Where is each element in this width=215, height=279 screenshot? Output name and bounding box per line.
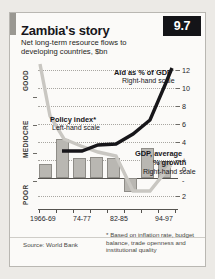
annotation-aid-label: Aid as % of GDP: [114, 68, 172, 77]
right-axis-tick: [176, 160, 180, 161]
left-axis-tick: [33, 97, 37, 98]
x-axis-tick: [90, 209, 91, 213]
left-axis-tick: [33, 181, 37, 182]
x-axis-label: 1966-69: [30, 215, 56, 222]
x-axis-tick: [107, 209, 108, 213]
source-note: Source: World Bank: [23, 241, 78, 248]
x-axis-tick: [141, 209, 142, 213]
figure-number-badge: 9.7: [163, 16, 201, 36]
right-axis-tick: [176, 88, 180, 89]
right-axis-tick: [176, 70, 180, 71]
chart-subtitle: Net long-term resource flows to developi…: [21, 38, 151, 57]
x-axis-tick: [39, 209, 40, 213]
annotation-gdp-scale: Right-hand scale: [143, 168, 196, 175]
right-axis-tick: [176, 196, 180, 197]
right-axis-value: 6: [182, 120, 186, 129]
x-axis-tick: [175, 209, 176, 213]
right-axis-value: 10: [182, 84, 190, 93]
right-axis-value: 2: [182, 192, 186, 201]
x-axis-label: 82-85: [110, 215, 128, 222]
right-axis-tick: [176, 106, 180, 107]
x-axis-line: [38, 209, 178, 210]
annotation-policy-label: Policy index*: [50, 115, 96, 124]
right-axis-value: 8: [182, 102, 186, 111]
annotation-aid-scale: Right-hand scale: [122, 77, 175, 84]
left-axis-tick: [33, 125, 37, 126]
page-title: Zambia's story: [21, 23, 109, 38]
right-axis-tick: [176, 142, 180, 143]
left-axis-tick: [33, 153, 37, 154]
footnote: * Based on inflation rate, budget balanc…: [106, 231, 204, 254]
annotation-gdp-label: GDP, average: [135, 149, 182, 158]
right-axis-value: 12: [182, 66, 190, 75]
right-axis-tick: [176, 124, 180, 125]
x-axis-tick: [73, 209, 74, 213]
x-axis-label: 94-97: [155, 215, 173, 222]
x-axis-tick: [124, 209, 125, 213]
accent-bar: [10, 13, 16, 35]
x-axis-tick: [158, 209, 159, 213]
x-axis-tick: [56, 209, 57, 213]
right-axis-value: 4: [182, 138, 186, 147]
chart-card: 9.7 Zambia's story Net long-term resourc…: [9, 12, 206, 267]
right-axis-sign-minus: -: [182, 176, 184, 185]
right-axis-value: 0: [182, 165, 186, 174]
left-axis-label-poor: POOR: [22, 185, 29, 205]
x-axis-label: 74-77: [73, 215, 91, 222]
left-axis-label-mediocre: MEDIOCRE: [22, 120, 29, 158]
left-axis-label-good: GOOD: [22, 70, 29, 91]
annotation-policy-scale: Left-hand scale: [52, 124, 100, 131]
screenshot-frame: 9.7 Zambia's story Net long-term resourc…: [0, 0, 215, 279]
right-axis-sign-plus: +: [182, 156, 186, 165]
